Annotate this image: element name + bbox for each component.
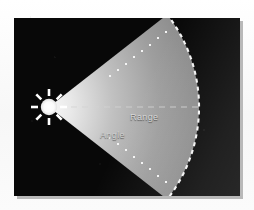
figure-root: Range Angle xyxy=(0,0,254,210)
angle-label: Angle xyxy=(100,130,125,140)
sun-core xyxy=(41,99,57,115)
diagram-svg xyxy=(14,18,240,196)
range-label: Range xyxy=(130,112,159,122)
diagram-panel: Range Angle xyxy=(14,18,240,196)
